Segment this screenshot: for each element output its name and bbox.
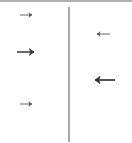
arrow-left: [95, 76, 115, 83]
arrow-right: [20, 13, 32, 18]
arrows-group: [17, 13, 115, 107]
diagram-svg-surface: [0, 2, 132, 143]
arrow-right: [17, 49, 34, 56]
arrow-diagram-figure: [0, 0, 132, 143]
arrow-left: [97, 32, 110, 37]
arrow-right: [20, 102, 32, 107]
